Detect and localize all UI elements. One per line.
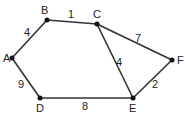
node-label-C: C bbox=[93, 8, 101, 20]
weighted-graph: 4174289ABCDEF bbox=[0, 0, 185, 117]
edge-weight-A-D: 9 bbox=[18, 78, 24, 90]
edge-weight-C-E: 4 bbox=[116, 56, 122, 68]
node-label-D: D bbox=[36, 102, 44, 114]
edge-weight-A-B: 4 bbox=[24, 26, 30, 38]
node-B bbox=[45, 18, 50, 23]
node-label-A: A bbox=[3, 52, 11, 64]
node-C bbox=[95, 22, 100, 27]
node-F bbox=[170, 58, 175, 63]
edge-weight-E-F: 2 bbox=[152, 78, 158, 90]
edge-weight-C-F: 7 bbox=[135, 32, 141, 44]
edge-weight-B-C: 1 bbox=[68, 8, 74, 20]
node-label-F: F bbox=[177, 54, 184, 66]
node-D bbox=[38, 96, 43, 101]
node-E bbox=[131, 96, 136, 101]
edge-B-C bbox=[47, 20, 97, 24]
edge-weight-D-E: 8 bbox=[82, 100, 88, 112]
node-label-E: E bbox=[129, 102, 136, 114]
node-label-B: B bbox=[41, 4, 48, 16]
edge-C-E bbox=[97, 24, 133, 98]
edge-A-D bbox=[12, 58, 40, 98]
